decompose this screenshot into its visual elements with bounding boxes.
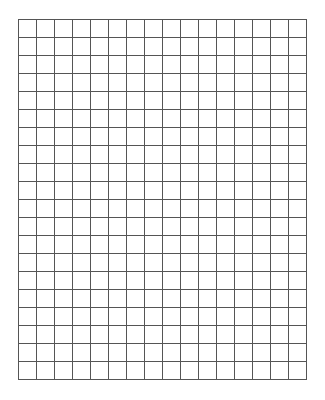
- grid-cell: [55, 362, 73, 380]
- grid-cell: [55, 146, 73, 164]
- grid-cell: [145, 362, 163, 380]
- grid-cell: [19, 200, 37, 218]
- grid-cell: [163, 146, 181, 164]
- grid-cell: [73, 218, 91, 236]
- grid-cell: [127, 182, 145, 200]
- grid-cell: [199, 308, 217, 326]
- grid-cell: [109, 218, 127, 236]
- grid-cell: [127, 74, 145, 92]
- grid-cell: [181, 182, 199, 200]
- grid-cell: [91, 146, 109, 164]
- grid-cell: [181, 74, 199, 92]
- grid-cell: [55, 236, 73, 254]
- grid-cell: [271, 74, 289, 92]
- grid-cell: [217, 164, 235, 182]
- grid-cell: [91, 362, 109, 380]
- grid-cell: [199, 164, 217, 182]
- grid-cell: [199, 362, 217, 380]
- grid-cell: [127, 254, 145, 272]
- grid-cell: [253, 146, 271, 164]
- grid-cell: [253, 290, 271, 308]
- grid-cell: [235, 20, 253, 38]
- grid-cell: [163, 344, 181, 362]
- grid-cell: [199, 128, 217, 146]
- grid-cell: [127, 20, 145, 38]
- grid-cell: [217, 38, 235, 56]
- grid-cell: [235, 56, 253, 74]
- grid-cell: [55, 110, 73, 128]
- grid-cell: [163, 254, 181, 272]
- grid-cell: [289, 218, 307, 236]
- grid-cell: [289, 110, 307, 128]
- grid-cell: [73, 38, 91, 56]
- grid-cell: [235, 236, 253, 254]
- grid-cell: [253, 344, 271, 362]
- grid-cell: [289, 290, 307, 308]
- grid-cell: [37, 200, 55, 218]
- grid-cell: [253, 56, 271, 74]
- grid-cell: [217, 92, 235, 110]
- grid-cell: [181, 290, 199, 308]
- grid-cell: [73, 236, 91, 254]
- grid-cell: [19, 146, 37, 164]
- grid-cell: [217, 326, 235, 344]
- grid-cell: [271, 254, 289, 272]
- grid-cell: [73, 326, 91, 344]
- grid-cell: [91, 128, 109, 146]
- grid-cell: [37, 272, 55, 290]
- grid-cell: [235, 92, 253, 110]
- grid-cell: [145, 344, 163, 362]
- grid-cell: [181, 272, 199, 290]
- grid-cell: [19, 254, 37, 272]
- grid-cell: [289, 182, 307, 200]
- grid-cell: [163, 92, 181, 110]
- grid-cell: [199, 272, 217, 290]
- grid-cell: [73, 362, 91, 380]
- grid-cell: [19, 56, 37, 74]
- grid-cell: [181, 164, 199, 182]
- grid-cell: [91, 308, 109, 326]
- grid-cell: [235, 164, 253, 182]
- grid-cell: [127, 272, 145, 290]
- grid-cell: [55, 218, 73, 236]
- grid-cell: [145, 56, 163, 74]
- grid-cell: [199, 182, 217, 200]
- grid-cell: [181, 56, 199, 74]
- grid-cell: [181, 308, 199, 326]
- grid-cell: [73, 308, 91, 326]
- grid-cell: [163, 326, 181, 344]
- grid-cell: [145, 200, 163, 218]
- grid-cell: [235, 128, 253, 146]
- grid-cell: [217, 272, 235, 290]
- grid-cell: [271, 110, 289, 128]
- grid-cell: [109, 344, 127, 362]
- grid-cell: [145, 20, 163, 38]
- grid-cell: [271, 20, 289, 38]
- grid-cell: [235, 362, 253, 380]
- grid-cell: [199, 254, 217, 272]
- grid-cell: [91, 236, 109, 254]
- grid-cell: [37, 128, 55, 146]
- grid-cell: [37, 92, 55, 110]
- grid-cell: [55, 56, 73, 74]
- grid-cell: [73, 344, 91, 362]
- grid-cell: [55, 326, 73, 344]
- grid-cell: [145, 164, 163, 182]
- grid-cell: [271, 272, 289, 290]
- grid-cell: [181, 38, 199, 56]
- grid-cell: [73, 128, 91, 146]
- grid-cell: [163, 128, 181, 146]
- grid-cell: [235, 344, 253, 362]
- grid-cell: [37, 146, 55, 164]
- grid-cell: [181, 110, 199, 128]
- grid-cell: [37, 344, 55, 362]
- grid-cell: [235, 254, 253, 272]
- grid-cell: [127, 218, 145, 236]
- grid-cell: [253, 128, 271, 146]
- grid-cell: [199, 20, 217, 38]
- grid-cell: [163, 164, 181, 182]
- grid-cell: [127, 38, 145, 56]
- grid-cell: [37, 308, 55, 326]
- grid-cell: [253, 74, 271, 92]
- grid-cell: [199, 290, 217, 308]
